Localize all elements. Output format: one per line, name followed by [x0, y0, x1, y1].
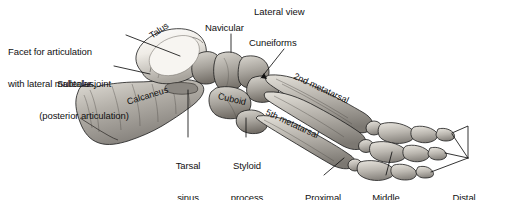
callout-navicular: Navicular — [205, 23, 244, 34]
tarsal-sinus-region — [165, 83, 198, 95]
callout-distal-line-1: Distal — [427, 193, 501, 200]
middle-phalanx-upper — [411, 126, 438, 143]
callout-tarsal-sinus-line-2: sinus — [160, 193, 216, 201]
callout-proximal-line-1: Proximal — [288, 193, 358, 200]
proximal-phalanx-middle — [370, 142, 407, 163]
callout-styloid-process: Styloid process — [218, 140, 276, 200]
callout-facet-line-1: Facet for articulation — [8, 47, 94, 58]
leader-distal-phalanges-2 — [445, 153, 468, 158]
callout-styloid-line-1: Styloid — [218, 161, 276, 172]
leader-distal-phalanges-vertical — [452, 126, 468, 158]
callout-tarsal-sinus: Tarsal sinus — [160, 140, 216, 200]
callout-proximal-phalanx: Proximal phalanx — [288, 172, 358, 200]
foot-anatomy-figure: Lateral view Facet for articulation with… — [0, 0, 505, 200]
callout-distal-phalanges: Distal phalanges — [427, 172, 501, 200]
figure-title: Lateral view — [254, 6, 305, 17]
proximal-phalanx-upper — [378, 123, 414, 144]
callout-middle-phalanx: Middle phalanx — [353, 172, 419, 200]
callout-tarsal-sinus-line-1: Tarsal — [160, 161, 216, 172]
distal-phalanx-upper — [436, 128, 455, 141]
leader-distal-phalanges-1 — [452, 134, 468, 158]
callout-styloid-line-2: process — [218, 193, 276, 201]
middle-phalanx-middle — [403, 145, 430, 162]
callout-subtalar-line-1: Subtalar joint — [4, 79, 164, 90]
distal-phalanx-middle — [428, 147, 447, 160]
callout-middle-line-1: Middle — [353, 193, 419, 200]
callout-cuneiforms: Cuneiforms — [249, 38, 297, 49]
callout-subtalar-line-2: (posterior articulation) — [4, 111, 164, 122]
